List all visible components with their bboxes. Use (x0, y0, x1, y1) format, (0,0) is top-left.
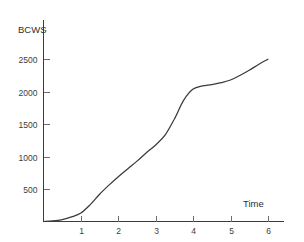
y-tick-label: 500 (23, 185, 37, 195)
bcws-chart: 5001000150020002500 123456 BCWS Time (0, 0, 304, 242)
x-tick-marks (82, 216, 269, 222)
x-tick-label: 5 (229, 226, 234, 236)
y-tick-labels: 5001000150020002500 (19, 55, 38, 195)
x-tick-label: 6 (266, 226, 271, 236)
x-tick-label: 4 (191, 226, 196, 236)
y-tick-label: 1000 (19, 153, 38, 163)
axes-group (44, 20, 285, 222)
bcws-curve (44, 59, 268, 221)
x-tick-label: 1 (79, 226, 84, 236)
x-tick-labels: 123456 (79, 226, 271, 236)
y-axis-title: BCWS (18, 24, 47, 35)
x-axis-title: Time (243, 198, 264, 209)
x-tick-label: 3 (154, 226, 159, 236)
y-tick-label: 1500 (19, 120, 38, 130)
x-tick-label: 2 (116, 226, 121, 236)
y-tick-marks (44, 60, 50, 190)
y-tick-label: 2000 (19, 88, 38, 98)
chart-canvas: 5001000150020002500 123456 BCWS Time (0, 0, 304, 242)
y-tick-label: 2500 (19, 55, 38, 65)
